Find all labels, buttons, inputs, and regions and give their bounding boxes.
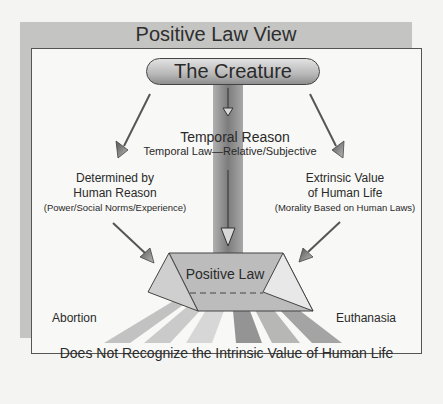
center-subheading: Temporal Law—Relative/Subjective: [120, 145, 340, 157]
right-branch-line1: Extrinsic Value: [270, 171, 420, 185]
left-branch-line2: Human Reason: [40, 186, 190, 200]
prism-label: Positive Law: [170, 266, 280, 282]
left-branch-detail: (Power/Social Norms/Experience): [30, 202, 200, 213]
outcome-right: Euthanasia: [336, 311, 416, 325]
right-branch-detail: (Morality Based on Human Laws): [255, 202, 435, 213]
conclusion-text: Does Not Recognize the Intrinsic Value o…: [31, 345, 422, 361]
left-branch-line1: Determined by: [40, 171, 190, 185]
outcome-left: Abortion: [52, 311, 132, 325]
arrow-bottom-right-icon: [299, 222, 340, 262]
arrow-bottom-left-icon: [113, 223, 154, 263]
center-heading: Temporal Reason: [150, 129, 320, 145]
creature-node: The Creature: [146, 58, 320, 85]
right-branch-line2: of Human Life: [270, 186, 420, 200]
